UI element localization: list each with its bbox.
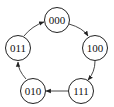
edge-011-000 bbox=[24, 22, 44, 36]
edge-000-100 bbox=[69, 24, 88, 36]
state-label: 100 bbox=[87, 42, 104, 54]
state-label: 000 bbox=[49, 14, 66, 26]
state-label: 111 bbox=[73, 85, 89, 97]
state-node-000: 000 bbox=[45, 8, 70, 33]
state-label: 010 bbox=[25, 85, 42, 97]
state-node-010: 010 bbox=[21, 79, 46, 104]
edge-100-111 bbox=[88, 61, 95, 80]
state-label: 011 bbox=[10, 42, 26, 54]
state-cycle-diagram: 000 100 111 010 011 bbox=[0, 0, 114, 107]
state-node-011: 011 bbox=[6, 36, 31, 61]
state-node-111: 111 bbox=[69, 79, 94, 104]
state-node-100: 100 bbox=[83, 36, 108, 61]
edge-010-011 bbox=[18, 62, 26, 79]
